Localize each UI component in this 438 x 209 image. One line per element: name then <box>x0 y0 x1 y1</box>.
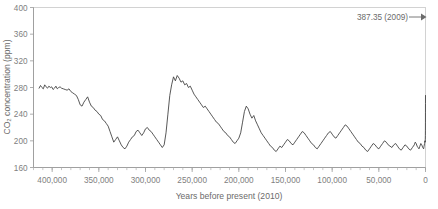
co2-concentration-chart: 400360320280240200160 400,000350,000300,… <box>0 0 438 209</box>
y-tick-label: 360 <box>14 30 28 39</box>
x-tick-label: 200,000 <box>224 176 254 185</box>
x-tick-label: 400,000 <box>37 176 67 185</box>
co2-data-line <box>39 76 425 152</box>
y-tick-label: 280 <box>14 84 28 93</box>
y-axis-ticks <box>30 8 34 168</box>
y-tick-label: 160 <box>14 164 28 173</box>
y-tick-label: 240 <box>14 110 28 119</box>
x-tick-label: 250,000 <box>177 176 207 185</box>
annotation-label: 387.35 (2009) <box>357 13 408 22</box>
y-tick-label: 320 <box>14 57 28 66</box>
y-axis-title: CO₂ concentration (ppm) <box>2 39 12 134</box>
y-tick-label: 400 <box>14 4 28 13</box>
x-axis-title: Years before present (2010) <box>176 191 283 201</box>
y-axis-tick-labels: 400360320280240200160 <box>14 4 28 173</box>
x-tick-label: 150,000 <box>271 176 301 185</box>
y-tick-label: 200 <box>14 137 28 146</box>
x-tick-label: 350,000 <box>84 176 114 185</box>
x-tick-label: 50,000 <box>366 176 391 185</box>
plot-area-border <box>34 8 426 168</box>
chart-canvas: 400360320280240200160 400,000350,000300,… <box>0 0 438 209</box>
x-tick-label: 0 <box>423 176 428 185</box>
x-tick-label: 300,000 <box>131 176 161 185</box>
x-axis-tick-labels: 400,000350,000300,000250,000200,000150,0… <box>37 176 428 185</box>
x-tick-label: 100,000 <box>317 176 347 185</box>
